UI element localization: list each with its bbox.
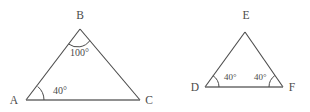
vertex-label-c: C xyxy=(145,94,153,106)
segment-bc xyxy=(80,29,140,100)
geometry-figure: A B C 40° 100° D E F 40° 40° xyxy=(0,0,310,112)
angle-arc-f xyxy=(269,76,275,87)
vertex-label-a: A xyxy=(10,94,19,106)
geometry-canvas: A B C 40° 100° D E F 40° 40° xyxy=(0,0,310,112)
angle-arc-d xyxy=(213,76,219,87)
angle-arc-a xyxy=(38,87,44,101)
vertex-label-e: E xyxy=(242,9,249,21)
angle-arc-b xyxy=(69,41,90,47)
angle-label-f: 40° xyxy=(254,72,267,82)
angle-label-a: 40° xyxy=(53,85,67,96)
vertex-label-d: D xyxy=(191,81,199,93)
angle-label-b: 100° xyxy=(70,47,89,58)
triangle-def: D E F 40° 40° xyxy=(191,9,295,93)
triangle-abc: A B C 40° 100° xyxy=(10,9,153,106)
vertex-label-b: B xyxy=(76,9,84,21)
angle-label-d: 40° xyxy=(224,72,237,82)
vertex-label-f: F xyxy=(289,81,295,93)
